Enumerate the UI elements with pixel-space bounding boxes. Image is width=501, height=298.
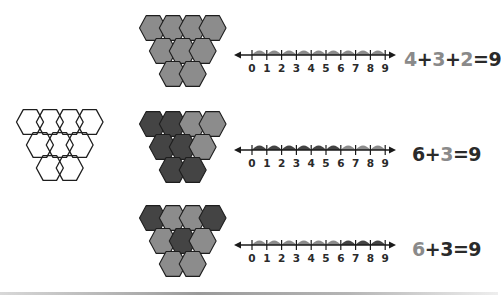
hexagon xyxy=(56,110,83,135)
tick-label: 4 xyxy=(308,62,315,74)
tick-label: 6 xyxy=(337,157,344,169)
tick-label: 2 xyxy=(278,252,285,264)
equation-2: 6+3=9 xyxy=(412,143,481,165)
tick-label: 9 xyxy=(382,62,389,74)
jump-arc xyxy=(252,51,267,56)
jump-arc xyxy=(341,241,356,246)
jump-arc xyxy=(370,51,385,56)
jump-arc xyxy=(296,51,311,56)
jump-arc xyxy=(311,241,326,246)
outline-hexagon-figure xyxy=(14,108,134,190)
jump-arc xyxy=(252,146,267,151)
hexagon xyxy=(199,206,226,231)
jump-arc xyxy=(296,146,311,151)
number-line-2: 0123456789 xyxy=(234,139,396,175)
jump-arc xyxy=(282,51,297,56)
jump-arc xyxy=(326,51,341,56)
tick-label: 8 xyxy=(367,252,374,264)
equation-3: 6+3=9 xyxy=(412,238,481,260)
jump-arc xyxy=(341,51,356,56)
tick-label: 5 xyxy=(322,62,329,74)
jump-arc xyxy=(282,241,297,246)
equation-part: =9 xyxy=(453,238,481,260)
equation-1: 4+3+2=9 xyxy=(404,48,501,70)
jump-arc xyxy=(370,241,385,246)
tick-label: 3 xyxy=(293,62,300,74)
hexagon xyxy=(189,229,216,254)
jump-arc xyxy=(326,241,341,246)
equation-part: 2 xyxy=(460,48,473,70)
equation-part: 3 xyxy=(432,48,445,70)
hexagon xyxy=(26,133,53,158)
hexagon xyxy=(36,156,63,181)
equation-part: 3 xyxy=(440,238,453,260)
tick-label: 8 xyxy=(367,157,374,169)
hexagon xyxy=(76,110,103,135)
hexagon xyxy=(189,135,216,160)
right-arrow-icon xyxy=(389,147,396,154)
equation-part: 6 xyxy=(412,143,425,165)
jump-arc xyxy=(356,241,371,246)
jump-arc xyxy=(267,146,282,151)
equation-part: 3 xyxy=(440,143,453,165)
hexagon xyxy=(199,112,226,137)
equation-part: =9 xyxy=(453,143,481,165)
jump-arc xyxy=(296,241,311,246)
equation-part: + xyxy=(425,143,440,165)
equation-part: 6 xyxy=(412,238,425,260)
tick-label: 9 xyxy=(382,252,389,264)
tick-label: 7 xyxy=(352,62,359,74)
right-arrow-icon xyxy=(389,52,396,59)
tick-label: 1 xyxy=(263,252,270,264)
jump-arc xyxy=(267,241,282,246)
tick-label: 0 xyxy=(248,62,255,74)
tick-label: 8 xyxy=(367,62,374,74)
jump-arc xyxy=(356,51,371,56)
tick-label: 6 xyxy=(337,252,344,264)
tick-label: 3 xyxy=(293,252,300,264)
left-arrow-icon xyxy=(234,147,241,154)
tick-label: 5 xyxy=(322,157,329,169)
bottom-divider xyxy=(0,292,498,295)
jump-arc xyxy=(370,146,385,151)
tick-label: 4 xyxy=(308,252,315,264)
number-line-svg-2: 0123456789 xyxy=(234,139,396,175)
jump-arc xyxy=(252,241,267,246)
jump-arc xyxy=(356,146,371,151)
number-line-1: 0123456789 xyxy=(234,44,396,80)
tick-label: 0 xyxy=(248,157,255,169)
tick-label: 0 xyxy=(248,252,255,264)
number-line-svg-3: 0123456789 xyxy=(234,234,396,270)
right-arrow-icon xyxy=(389,242,396,249)
hexagon xyxy=(17,110,44,135)
number-line-3: 0123456789 xyxy=(234,234,396,270)
jump-arc xyxy=(326,146,341,151)
tick-label: 3 xyxy=(293,157,300,169)
hexagon xyxy=(66,133,93,158)
equation-part: 4 xyxy=(404,48,417,70)
hexagon xyxy=(36,110,63,135)
hexagon xyxy=(189,39,216,64)
jump-arc xyxy=(311,146,326,151)
left-arrow-icon xyxy=(234,242,241,249)
tick-label: 5 xyxy=(322,252,329,264)
hexagon xyxy=(56,156,83,181)
equation-part: =9 xyxy=(473,48,501,70)
hexagon xyxy=(179,62,206,87)
tick-label: 6 xyxy=(337,62,344,74)
jump-arc xyxy=(282,146,297,151)
tick-label: 9 xyxy=(382,157,389,169)
hexagon xyxy=(199,16,226,41)
tick-label: 7 xyxy=(352,157,359,169)
equation-part: + xyxy=(425,238,440,260)
tick-label: 1 xyxy=(263,157,270,169)
tick-label: 2 xyxy=(278,157,285,169)
outline-hexagons xyxy=(14,108,134,190)
jump-arc xyxy=(341,146,356,151)
hexagon xyxy=(179,158,206,183)
hexagon xyxy=(179,252,206,277)
equation-part: + xyxy=(445,48,460,70)
tick-label: 4 xyxy=(308,157,315,169)
hexagon xyxy=(46,133,73,158)
jump-arc xyxy=(311,51,326,56)
